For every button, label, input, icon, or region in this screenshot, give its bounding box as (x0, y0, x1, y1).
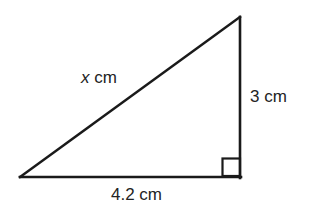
base-length-label: 4.2 cm (111, 186, 162, 203)
right-angle-marker-icon (223, 159, 241, 177)
vertical-side-length-label: 3 cm (250, 88, 287, 105)
triangle-hypotenuse-line (20, 17, 240, 177)
hypotenuse-length-label: x cm (81, 69, 117, 86)
hypotenuse-unit: cm (94, 68, 117, 87)
right-triangle-figure: x cm 3 cm 4.2 cm (0, 0, 316, 209)
triangle-outline (20, 17, 241, 178)
hypotenuse-variable: x (81, 68, 90, 87)
